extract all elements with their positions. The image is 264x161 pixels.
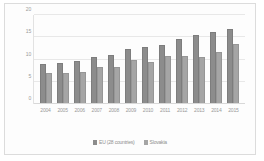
- bar-slovakia[interactable]: [165, 56, 171, 104]
- x-axis-tick-label: 2009: [126, 107, 136, 113]
- bar-group: 2014: [208, 15, 225, 104]
- bar-slovakia[interactable]: [80, 72, 86, 104]
- x-axis-tick-label: 2008: [109, 107, 119, 113]
- bar-group: 2008: [105, 15, 122, 104]
- bar-group: 2007: [88, 15, 105, 104]
- legend-swatch-icon: [144, 140, 148, 145]
- bar-group: 2012: [174, 15, 191, 104]
- x-axis-tick-label: 2006: [75, 107, 85, 113]
- y-axis-tick-label: 10: [26, 51, 31, 57]
- bar-slovakia[interactable]: [199, 57, 205, 104]
- legend-item[interactable]: EU (28 countries): [93, 139, 135, 145]
- bar-group: 2005: [54, 15, 71, 104]
- y-axis-tick-label: 0: [28, 95, 31, 101]
- bar-group: 2009: [122, 15, 139, 104]
- x-axis-tick-label: 2011: [160, 107, 170, 113]
- bar-slovakia[interactable]: [131, 60, 137, 104]
- bar-group: 2015: [225, 15, 242, 104]
- bar-slovakia[interactable]: [233, 44, 239, 104]
- y-axis-tick-label: 15: [26, 28, 31, 34]
- x-axis-tick-label: 2007: [92, 107, 102, 113]
- x-axis-tick-label: 2004: [40, 107, 50, 113]
- y-axis-tick-label: 20: [26, 6, 31, 12]
- bar-slovakia[interactable]: [182, 56, 188, 105]
- x-axis-tick-label: 2005: [57, 107, 67, 113]
- legend-item[interactable]: Slovakia: [144, 139, 167, 145]
- bar-series-container: 2004200520062007200820092010201120122013…: [34, 15, 245, 104]
- bar-slovakia[interactable]: [216, 52, 222, 105]
- legend-swatch-icon: [93, 140, 97, 145]
- bar-group: 2006: [71, 15, 88, 104]
- legend-label: Slovakia: [150, 139, 167, 145]
- bar-group: 2010: [139, 15, 156, 104]
- y-axis-tick-label: 5: [28, 73, 31, 79]
- legend-label: EU (28 countries): [99, 139, 135, 145]
- bar-slovakia[interactable]: [97, 67, 103, 104]
- x-axis-tick-label: 2013: [194, 107, 204, 113]
- x-axis-tick-label: 2014: [211, 107, 221, 113]
- x-axis-tick-label: 2010: [143, 107, 153, 113]
- bar-slovakia[interactable]: [114, 67, 120, 104]
- bar-group: 2004: [37, 15, 54, 104]
- bar-group: 2011: [157, 15, 174, 104]
- plot-wrapper: 20151050 2004200520062007200820092010201…: [11, 9, 249, 122]
- bar-slovakia[interactable]: [148, 62, 154, 104]
- bar-slovakia[interactable]: [63, 73, 69, 104]
- bar-slovakia[interactable]: [46, 73, 52, 104]
- bar-group: 2013: [191, 15, 208, 104]
- x-axis-tick-label: 2015: [228, 107, 238, 113]
- axis-baseline: [34, 103, 245, 104]
- chart-legend: EU (28 countries)Slovakia: [5, 139, 255, 145]
- x-axis-tick-label: 2012: [177, 107, 187, 113]
- plot-area: 20151050 2004200520062007200820092010201…: [33, 15, 245, 104]
- chart-frame: 20151050 2004200520062007200820092010201…: [4, 3, 256, 155]
